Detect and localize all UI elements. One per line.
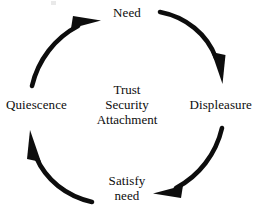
cycle-diagram: Need Displeasure Quiescence Satisfy need… — [0, 0, 254, 214]
node-label-satisfy-need: Satisfy need — [0, 173, 254, 203]
center-caption-line-trust: Trust — [0, 82, 254, 97]
center-caption-line-attachment: Attachment — [0, 112, 254, 127]
arrow-need-to-displeasure — [160, 12, 226, 84]
node-label-need: Need — [0, 6, 254, 20]
node-label-satisfy-need-line2: need — [0, 188, 254, 203]
arrow-quiescence-to-need — [32, 16, 101, 86]
center-caption: Trust Security Attachment — [0, 82, 254, 127]
node-label-satisfy-need-line1: Satisfy — [0, 173, 254, 188]
center-caption-line-security: Security — [0, 97, 254, 112]
